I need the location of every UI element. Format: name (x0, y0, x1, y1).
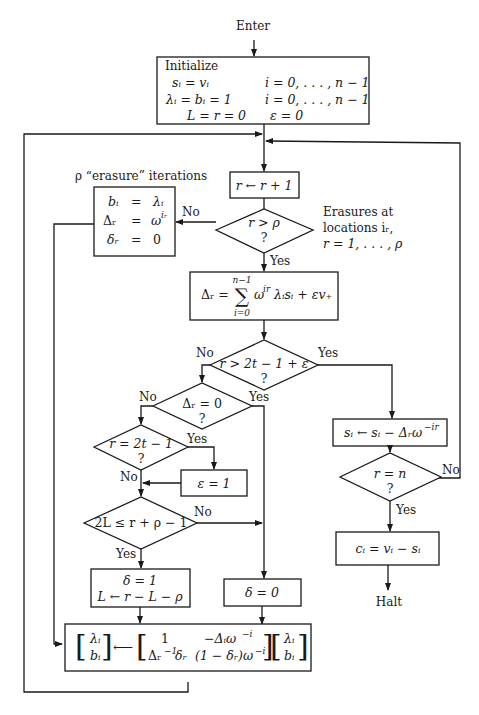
r-eq-2t-yes-arrow (188, 447, 214, 469)
init-row-1-right: i = 0, . . . , n − 1 (265, 75, 370, 90)
erasure-row-1-lhs: bᵢ (108, 194, 119, 209)
init-row-3-right: ε = 0 (270, 108, 303, 123)
matrix-m12: −Δᵢω (204, 631, 236, 646)
decision-r-gt-rho-q: ? (261, 230, 268, 245)
matrix-m21: Δᵣ (148, 648, 161, 663)
r-gt-2t-no-arrow (202, 365, 210, 382)
flowchart-figure: Enter Initialize sᵢ = vᵢ i = 0, . . . , … (0, 0, 479, 715)
discrepancy-lhs: Δᵣ = (201, 287, 229, 302)
decision-r-gt-2t-q: ? (261, 371, 268, 386)
vec-left-bottom: bᵢ (90, 648, 101, 663)
vec-right-top: λᵢ (283, 631, 295, 646)
discrepancy-box: Δᵣ = n−1 ∑ i=0 ω ir λᵢsᵢ + εv₊ (190, 272, 338, 320)
update-syndrome-box: sᵢ ← sᵢ − Δᵣω −ir (333, 419, 447, 446)
flowchart-canvas: Enter Initialize sᵢ = vᵢ i = 0, . . . , … (0, 0, 479, 715)
init-row-2-right: i = 0, . . . , n − 1 (265, 92, 370, 107)
erasure-row-2-eq: = (131, 213, 141, 228)
initialize-box: Initialize sᵢ = vᵢ i = 0, . . . , n − 1 … (157, 57, 370, 124)
decision-r-eq-n-q: ? (387, 481, 394, 496)
increment-box: r ← r + 1 (230, 172, 299, 198)
decision-2L-text: 2L ≤ r + ρ − 1 (95, 515, 188, 530)
decision-r-gt-rho: r > ρ ? (216, 209, 313, 253)
initialize-title: Initialize (165, 59, 218, 73)
decision-r-eq-2t-q: ? (138, 451, 145, 466)
output-box-text: cᵢ = vᵢ − sᵢ (356, 541, 421, 556)
epsilon-box-text: ε = 1 (197, 476, 230, 491)
decision-r-gt-rho-text: r > ρ (248, 215, 280, 230)
erasure-row-3-eq: = (131, 232, 141, 247)
erasure-row-2-sup: iᵣ (161, 210, 167, 220)
matrix-m22: (1 − δᵣ)ω (195, 648, 253, 663)
delta-zero-box-text: δ = 0 (245, 585, 279, 600)
discrepancy-sum-lower: i=0 (234, 308, 250, 318)
decision-r-gt-2t: r > 2t − 1 + ε ? (210, 340, 318, 390)
vec-left-top: λᵢ (89, 631, 101, 646)
init-row-3-left: L = r = 0 (186, 108, 246, 123)
halt-label: Halt (376, 595, 402, 609)
delta-one-box: δ = 1 L ← r − L − ρ (91, 569, 190, 607)
r-gt-rho-yes-label: Yes (269, 254, 290, 268)
init-row-2-left: λᵢ = bᵢ = 1 (165, 92, 232, 107)
r-eq-2t-no-label: No (120, 470, 138, 484)
erasure-to-matrix-line (54, 224, 94, 644)
erasure-row-1-rhs: λᵢ (152, 194, 164, 209)
decision-2L-no-label: No (194, 505, 212, 519)
decision-delta-zero-q: ? (199, 411, 206, 426)
update-syndrome-sup: −ir (424, 422, 439, 432)
assign-arrow: ⟵ (113, 639, 133, 655)
r-gt-2t-yes-arrow (318, 365, 392, 418)
decision-r-eq-n-text: r = n (374, 466, 406, 481)
delta-zero-box: δ = 0 (224, 579, 301, 606)
right-bracket-3: ] (297, 628, 309, 663)
erasure-locations-note-2: locations iᵣ, (323, 221, 393, 235)
matrix-m12-sup: −i (242, 629, 253, 639)
delta-zero-yes-label: Yes (248, 390, 269, 404)
decision-r-eq-2t-text: r = 2t − 1 (109, 436, 173, 451)
erasure-locations-note-1: Erasures at (323, 205, 394, 219)
erasure-row-1-eq: = (131, 194, 141, 209)
matrix-update-box: [ λᵢ bᵢ ] ⟵ [ 1 −Δᵢω −i Δᵣ −1 δᵣ (1 − δᵣ… (65, 624, 311, 671)
epsilon-box: ε = 1 (181, 470, 247, 496)
update-syndrome-text: sᵢ ← sᵢ − Δᵣω (344, 425, 422, 440)
r-eq-2t-yes-label: Yes (186, 432, 207, 446)
erasure-locations-note-3: r = 1, . . . , ρ (323, 236, 403, 251)
delta-one-line1: δ = 1 (123, 573, 157, 588)
decision-2L: 2L ≤ r + ρ − 1 (84, 497, 197, 549)
decision-delta-zero-text: Δᵣ = 0 (182, 396, 222, 411)
delta-zero-yes-arrow (252, 406, 264, 578)
delta-one-line2: L ← r − L − ρ (96, 589, 183, 604)
discrepancy-sum-symbol: ∑ (235, 284, 250, 308)
matrix-m21-tail: δᵣ (175, 648, 188, 663)
init-row-1-left: sᵢ = vᵢ (172, 75, 209, 90)
decision-2L-yes-label: Yes (115, 547, 136, 561)
r-gt-2t-no-label: No (196, 346, 214, 360)
delta-zero-no-arrow (141, 406, 153, 424)
decision-r-eq-2t: r = 2t − 1 ? (94, 425, 188, 470)
enter-label: Enter (236, 19, 270, 33)
erasure-row-3-rhs: 0 (153, 232, 161, 247)
left-bracket-1: [ (75, 628, 87, 663)
erasure-row-3-lhs: δᵣ (107, 232, 120, 247)
vec-right-bottom: bᵢ (284, 648, 295, 663)
output-box: cᵢ = vᵢ − sᵢ (336, 532, 439, 565)
matrix-m11: 1 (161, 631, 169, 646)
r-gt-rho-no-label: No (182, 205, 200, 219)
discrepancy-rest: λᵢsᵢ + εv₊ (273, 287, 332, 302)
erasure-box: bᵢ = λᵢ Δᵣ = ω iᵣ δᵣ = 0 (94, 187, 175, 256)
r-gt-2t-yes-label: Yes (317, 346, 338, 360)
increment-text: r ← r + 1 (236, 178, 293, 193)
r-eq-n-no-label: No (442, 463, 460, 477)
r-eq-n-yes-label: Yes (395, 503, 416, 517)
erasure-row-2-lhs: Δᵣ (103, 213, 116, 228)
decision-r-eq-n: r = n ? (340, 453, 441, 501)
right-bracket-1: ] (101, 628, 113, 663)
decision-delta-zero: Δᵣ = 0 ? (153, 383, 252, 429)
erasure-iterations-note: ρ “erasure” iterations (75, 169, 207, 183)
left-bracket-3: [ (270, 628, 282, 663)
erasure-row-2-rhs: ω (151, 213, 161, 228)
delta-zero-no-label: No (139, 390, 157, 404)
left-bracket-2: [ (136, 628, 148, 663)
discrepancy-term-sup: ir (263, 284, 271, 294)
decision-r-gt-2t-text: r > 2t − 1 + ε (220, 356, 309, 371)
